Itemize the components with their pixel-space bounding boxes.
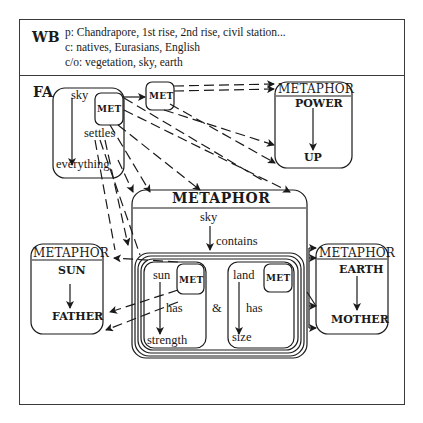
- power-header: METAPHOR: [278, 82, 354, 96]
- fa-met-label: MET: [97, 104, 121, 114]
- fa-bottom-label: everything: [56, 157, 109, 172]
- power-source: POWER: [295, 97, 343, 110]
- standalone-met-label: MET: [149, 91, 173, 101]
- sun-inner-relation: has: [166, 301, 183, 316]
- land-inner-bottom: size: [232, 330, 251, 345]
- conjunction-label: &: [212, 301, 222, 316]
- land-inner-top: land: [233, 268, 255, 283]
- land-inner-relation: has: [246, 301, 263, 316]
- sky-metaphor-header: METAPHOR: [172, 190, 270, 206]
- power-target: UP: [304, 151, 322, 164]
- sun-metaphor-source: SUN: [58, 264, 86, 277]
- fa-relation-label: settles: [84, 126, 115, 141]
- sky-top-label: sky: [200, 210, 217, 225]
- sun-inner-bottom: strength: [147, 333, 187, 348]
- sun-metaphor-header: METAPHOR: [33, 246, 109, 260]
- sun-inner-top: sun: [153, 268, 170, 283]
- sun-metaphor-target: FATHER: [52, 310, 103, 323]
- earth-metaphor-header: METAPHOR: [319, 246, 395, 260]
- earth-metaphor-target: MOTHER: [331, 313, 389, 326]
- earth-metaphor-source: EARTH: [339, 263, 383, 276]
- sun-inner-met: MET: [179, 275, 203, 285]
- fa-top-label: sky: [71, 88, 88, 103]
- sky-relation-label: contains: [216, 234, 258, 249]
- land-inner-met: MET: [266, 273, 290, 283]
